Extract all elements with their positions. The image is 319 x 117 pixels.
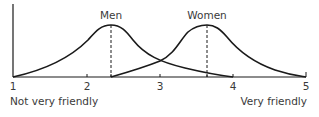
axis-left-end-label: Not very friendly: [10, 95, 98, 107]
men-label: Men: [100, 9, 122, 21]
women-curve: [111, 25, 306, 77]
tick-label-5: 5: [303, 80, 310, 92]
tick-label-4: 4: [230, 80, 237, 92]
women-label: Women: [187, 9, 227, 21]
tick-label-1: 1: [10, 80, 17, 92]
axis-right-end-label: Very friendly: [240, 95, 307, 107]
tick-label-3: 3: [157, 80, 164, 92]
men-curve: [13, 25, 233, 77]
tick-label-2: 2: [84, 80, 91, 92]
friendliness-distribution-chart: Men Women 1 2 3 4 5 Not very friendly Ve…: [0, 0, 319, 117]
